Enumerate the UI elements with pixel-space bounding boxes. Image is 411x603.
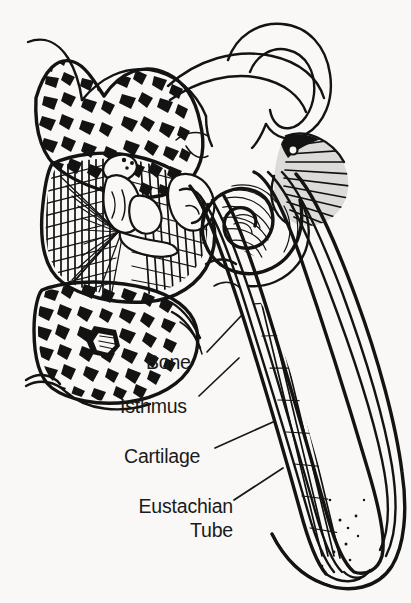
label-cartilage: Cartilage	[124, 444, 200, 468]
label-eustachian-line2: Tube	[135, 518, 233, 542]
label-eustachian-tube: EustachianTube	[135, 494, 233, 542]
label-isthmus: Isthmus	[120, 394, 187, 418]
label-eustachian-line1: Eustachian	[139, 495, 233, 517]
label-bone: Bone	[146, 350, 191, 374]
anatomy-figure: Bone Isthmus Cartilage EustachianTube	[0, 0, 411, 603]
